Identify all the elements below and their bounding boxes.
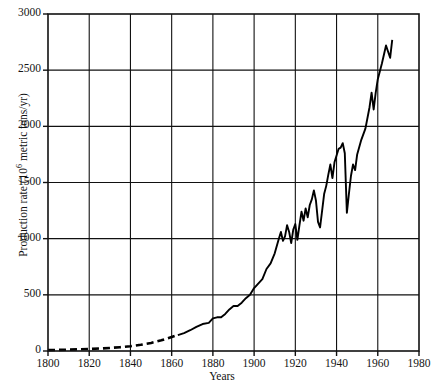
series-line-estimated [48,335,178,350]
series-line-measured [178,40,392,335]
y-tick-3000: 3000 [0,6,41,18]
production-rate-chart: 050010001500200025003000 180018201840186… [0,0,444,389]
data-curves [48,40,392,350]
x-axis-label: Years [0,370,444,382]
x-tick-1980: 1980 [394,357,444,369]
chart-plot-area [0,0,444,389]
y-axis-label: Production rate (106 metric tons/yr) [15,65,29,285]
gridlines [43,14,419,356]
y-tick-500: 500 [0,287,41,299]
y-tick-0: 0 [0,343,41,355]
